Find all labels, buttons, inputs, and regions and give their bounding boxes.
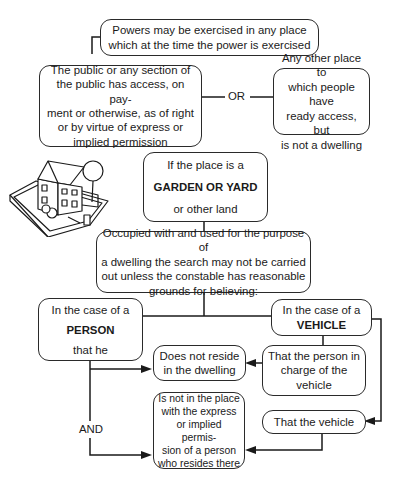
garden-emphasis: GARDEN OR YARD [154, 176, 258, 198]
other-place-line: which people have [278, 80, 365, 109]
other-place-box: Any other place to which people have rea… [273, 68, 370, 135]
garden-line: If the place is a [167, 154, 244, 176]
person-in-charge-line: That the person in [268, 349, 360, 363]
garden-line: or other land [174, 198, 238, 220]
vehicle-emphasis: VEHICLE [297, 318, 346, 332]
arrow-head [245, 359, 256, 367]
that-vehicle-line: That the vehicle [274, 415, 354, 429]
public-line: The public or any section of [51, 63, 190, 77]
person-box: In the case of a PERSON that he [38, 298, 143, 361]
not-reside-line: Does not reside [160, 349, 240, 363]
other-place-line: ready access, but [278, 109, 365, 138]
house-illustration [8, 157, 110, 237]
arrow-head [141, 365, 152, 373]
not-in-place-line: or implied permis- [158, 418, 240, 444]
arrow-head [245, 446, 256, 454]
garden-yard-box: If the place is a GARDEN OR YARD or othe… [143, 152, 268, 222]
person-line: In the case of a [52, 300, 130, 320]
arrow-head [141, 451, 152, 459]
public-line: implied permission [73, 135, 167, 149]
not-reside-box: Does not reside in the dwelling [153, 345, 246, 381]
occupied-line: out unless the constable has reasonable [102, 269, 306, 283]
that-vehicle-box: That the vehicle [262, 410, 366, 434]
occupied-dwelling-box: Occupied with and used for the purpose o… [96, 231, 311, 293]
person-in-charge-line: vehicle [296, 378, 331, 392]
other-place-line: is not a dwelling [281, 138, 362, 152]
public-access-box: The public or any section of the public … [39, 65, 202, 147]
person-in-charge-line: charge of the [281, 363, 348, 377]
person-in-charge-box: That the person in charge of the vehicle [262, 345, 366, 396]
person-line: that he [73, 340, 108, 360]
public-line: ment or otherwise, as of right [47, 106, 194, 120]
powers-line: Powers may be exercised in any place [112, 23, 306, 37]
powers-line: which at the time the power is exercised [109, 38, 311, 52]
occupied-line: grounds for believing: [149, 284, 258, 298]
vehicle-line: In the case of a [283, 303, 361, 317]
occupied-line: a dwelling the search may not be carried [101, 255, 306, 269]
public-line: the public has access, on pay- [44, 77, 197, 106]
occupied-line: Occupied with and used for the purpose o… [101, 226, 306, 255]
other-place-line: Any other place to [278, 51, 365, 80]
not-in-place-line: Is not in the place [158, 392, 239, 405]
and-label: AND [79, 423, 103, 435]
not-in-place-line: with the express [161, 405, 236, 418]
not-in-place-box: Is not in the place with the express or … [153, 392, 245, 469]
or-label: OR [228, 90, 245, 102]
not-in-place-line: sion of a person [162, 444, 236, 457]
not-in-place-line: who resides there [158, 457, 240, 470]
vehicle-box: In the case of a VEHICLE [271, 299, 372, 336]
not-reside-line: in the dwelling [163, 363, 235, 377]
public-line: or by virtue of express or [58, 120, 183, 134]
person-emphasis: PERSON [66, 320, 114, 340]
